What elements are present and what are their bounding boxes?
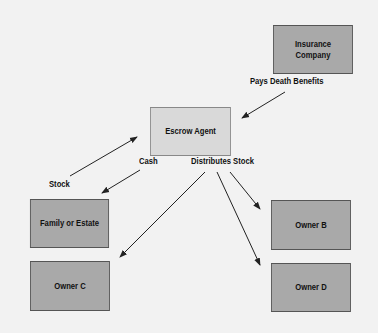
label-pays-death-benefits: Pays Death Benefits (250, 76, 324, 86)
arrow-owner-b (230, 172, 260, 209)
node-family-or-estate: Family or Estate (30, 199, 109, 248)
arrow-owner-d (217, 172, 260, 265)
label-stock: Stock (49, 179, 70, 189)
arrow-pays (242, 92, 285, 118)
node-owner-b: Owner B (271, 200, 351, 250)
node-owner-d: Owner D (271, 263, 351, 312)
node-insurance-company: Insurance Company (273, 25, 353, 74)
label-distributes-stock: Distributes Stock (191, 156, 254, 166)
node-owner-c: Owner C (30, 261, 110, 311)
arrow-stock (70, 137, 137, 176)
node-escrow-agent: Escrow Agent (150, 107, 231, 156)
arrow-owner-c (120, 172, 205, 257)
arrow-cash (102, 170, 140, 193)
label-cash: Cash (139, 156, 158, 166)
